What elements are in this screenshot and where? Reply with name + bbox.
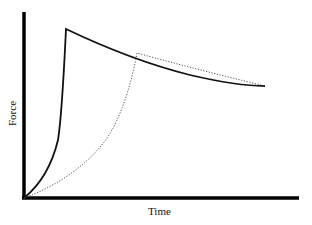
- y-axis-label: Force: [6, 101, 18, 126]
- force-time-chart: Time Force: [0, 0, 312, 225]
- x-axis-label: Time: [148, 205, 171, 217]
- solid-series-line: [24, 29, 265, 198]
